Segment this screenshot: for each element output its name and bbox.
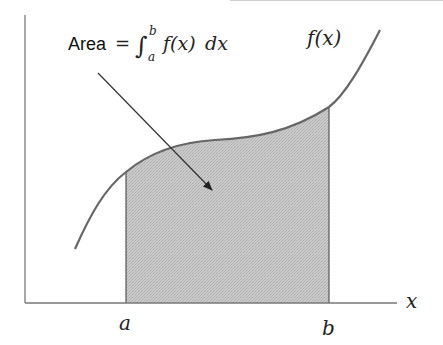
tick-label-b: b [322, 316, 335, 340]
lower-limit: a [148, 50, 155, 64]
integrand: f(x) [161, 32, 196, 54]
shaded-area [126, 107, 329, 303]
upper-limit: b [149, 24, 157, 38]
curve-label: f(x) [305, 26, 341, 50]
integral-sign: ∫ [135, 32, 148, 60]
area-label: Area [68, 34, 107, 54]
differential: dx [205, 32, 228, 54]
tick-label-a: a [119, 311, 131, 335]
x-axis-label: x [406, 289, 417, 313]
area-formula: Area = ∫ b a f(x) dx [68, 24, 228, 64]
integral-diagram: Area = ∫ b a f(x) dx f(x) x a b [0, 0, 443, 345]
equals-sign: = [115, 33, 130, 54]
